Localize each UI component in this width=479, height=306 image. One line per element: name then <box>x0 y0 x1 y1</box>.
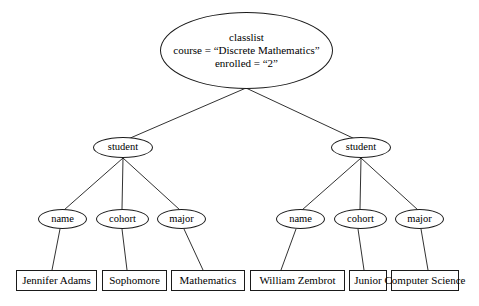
node-value-cohort-1-label: Sophomore <box>109 274 160 287</box>
node-classlist-root[interactable]: classlist course = “Discrete Mathematics… <box>160 12 333 89</box>
node-student-1-label: student <box>108 141 138 153</box>
edge-student-1-cohort <box>122 158 123 209</box>
edge-root-student-1 <box>128 88 246 139</box>
edge-major-2-value <box>421 229 428 270</box>
node-attribute-cohort-2-label: cohort <box>347 213 374 225</box>
edge-name-1-value <box>52 229 60 270</box>
root-element-name: classlist <box>173 31 319 44</box>
node-attribute-name-1-label: name <box>51 213 74 225</box>
node-value-cohort-2-label: Junior <box>354 274 382 287</box>
node-student-2-label: student <box>346 141 376 153</box>
node-attribute-major-1[interactable]: major <box>157 209 206 229</box>
root-attribute-course: course = “Discrete Mathematics” <box>173 44 319 57</box>
edge-student-2-cohort <box>360 158 361 209</box>
edge-student-1-name <box>64 158 123 210</box>
node-attribute-cohort-2[interactable]: cohort <box>334 209 387 229</box>
node-value-name-1[interactable]: Jennifer Adams <box>16 270 97 291</box>
node-attribute-name-2-label: name <box>289 213 312 225</box>
node-value-cohort-1[interactable]: Sophomore <box>102 270 167 291</box>
node-value-major-2-label: Computer Science <box>385 274 466 287</box>
edge-cohort-2-value <box>358 229 364 270</box>
edge-student-2-major <box>361 158 418 210</box>
node-student-1[interactable]: student <box>93 137 153 158</box>
node-value-major-1[interactable]: Mathematics <box>171 270 245 291</box>
node-value-name-1-label: Jennifer Adams <box>22 274 91 287</box>
node-value-major-2[interactable]: Computer Science <box>391 270 459 291</box>
edge-cohort-1-value <box>122 229 127 270</box>
node-attribute-name-1[interactable]: name <box>38 209 87 229</box>
edge-student-1-major <box>123 158 180 210</box>
node-attribute-name-2[interactable]: name <box>276 209 325 229</box>
node-value-major-1-label: Mathematics <box>180 274 237 287</box>
node-attribute-cohort-1-label: cohort <box>109 213 136 225</box>
node-attribute-major-2-label: major <box>407 213 432 225</box>
edge-name-2-value <box>281 229 296 270</box>
node-value-cohort-2[interactable]: Junior <box>349 270 387 291</box>
node-value-name-2-label: William Zembrot <box>259 274 335 287</box>
node-attribute-major-1-label: major <box>169 213 194 225</box>
node-attribute-cohort-1[interactable]: cohort <box>96 209 149 229</box>
node-student-2[interactable]: student <box>331 137 391 158</box>
edge-student-2-name <box>302 158 361 210</box>
edge-major-1-value <box>184 229 203 270</box>
xml-tree-diagram: classlist course = “Discrete Mathematics… <box>0 0 479 306</box>
node-value-name-2[interactable]: William Zembrot <box>250 270 345 291</box>
node-attribute-major-2[interactable]: major <box>395 209 444 229</box>
root-attribute-enrolled: enrolled = “2” <box>173 57 319 70</box>
edge-root-student-2 <box>246 88 355 139</box>
